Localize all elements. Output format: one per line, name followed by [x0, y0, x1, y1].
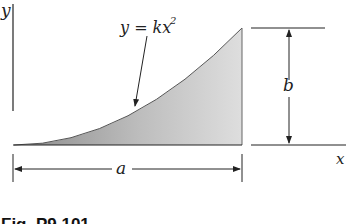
figure-caption: Fig. P9.101	[1, 215, 90, 224]
equation-pointer	[135, 36, 147, 106]
dimension-a-label: a	[116, 158, 126, 178]
curve-equation: y = kx	[119, 18, 171, 37]
diagram-canvas: y x y = kx 2 b a Fig. P9.101	[0, 0, 350, 224]
curve-exponent: 2	[169, 15, 176, 26]
x-axis-label: x	[336, 150, 345, 168]
shaded-area	[14, 28, 242, 145]
dimension-b-label: b	[283, 75, 294, 95]
y-axis-label: y	[0, 0, 11, 20]
